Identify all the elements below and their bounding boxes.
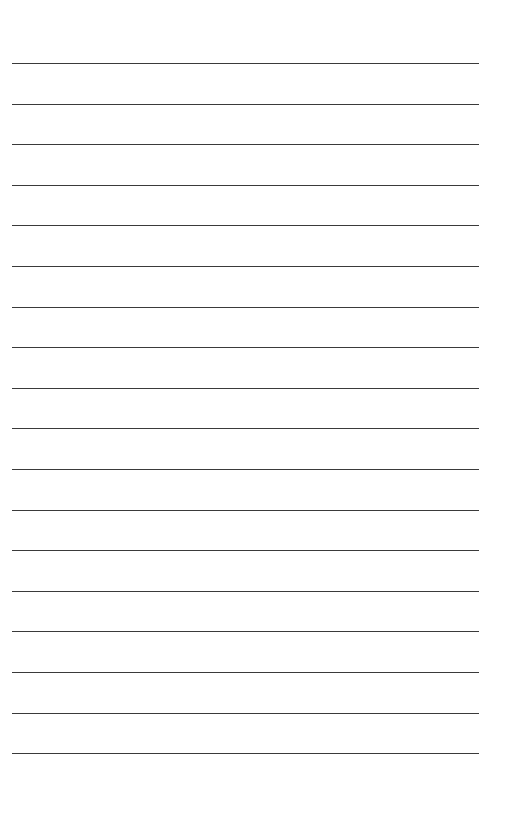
ruled-line	[12, 510, 479, 511]
ruled-line	[12, 550, 479, 551]
ruled-line	[12, 753, 479, 754]
ruled-line	[12, 185, 479, 186]
ruled-line	[12, 63, 479, 64]
ruled-line	[12, 428, 479, 429]
ruled-line	[12, 469, 479, 470]
ruled-line	[12, 591, 479, 592]
ruled-line	[12, 307, 479, 308]
ruled-line	[12, 672, 479, 673]
ruled-line	[12, 144, 479, 145]
ruled-line	[12, 713, 479, 714]
ruled-line	[12, 104, 479, 105]
lined-paper-page	[0, 0, 506, 825]
ruled-line	[12, 631, 479, 632]
ruled-line	[12, 225, 479, 226]
ruled-line	[12, 347, 479, 348]
ruled-line	[12, 388, 479, 389]
ruled-line	[12, 266, 479, 267]
